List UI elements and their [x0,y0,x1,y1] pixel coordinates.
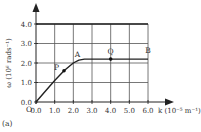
x-axis-arrow-icon [165,99,174,106]
x-axis-label: k (10⁻⁵ m⁻¹) [158,107,201,115]
point-label-a: A [74,50,81,59]
y-axis-arrow-icon [33,3,40,12]
y-tick-label: 1.0 [21,79,32,87]
y-tick-label: 4.0 [21,21,32,29]
x-tick-label: 1.0 [49,107,60,115]
x-tick-label: 0.0 [30,107,41,115]
y-tick-label: 3.0 [21,40,32,48]
point-label-q: Q [108,47,114,56]
dispersion-chart: 0.01.02.03.04.05.06.00.01.02.03.04.0PAQB… [0,0,201,132]
panel-label: (a) [2,119,12,128]
point-label-p: P [54,63,59,72]
x-tick-label: 5.0 [124,107,135,115]
x-tick-label: 4.0 [105,107,116,115]
point-marker-q [109,57,113,61]
point-label-b: B [145,46,151,55]
x-tick-label: 3.0 [86,107,97,115]
x-tick-label: 6.0 [142,107,153,115]
y-axis-label: ω (10⁶ rads⁻¹) [5,38,13,88]
origin-label: O [26,105,32,114]
point-marker-p [62,69,66,73]
y-tick-label: 2.0 [21,60,32,68]
x-tick-label: 2.0 [68,107,79,115]
